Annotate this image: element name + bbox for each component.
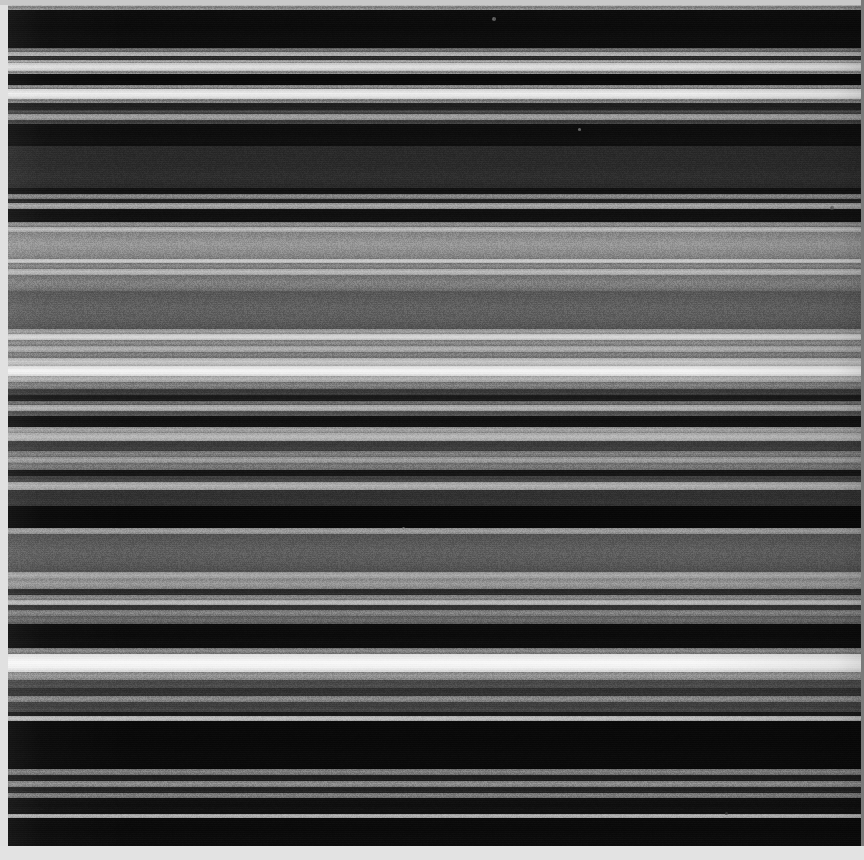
scan-band — [8, 89, 861, 99]
scan-band — [8, 463, 861, 470]
scan-band — [8, 275, 861, 291]
scan-band — [8, 291, 861, 329]
scan-band — [8, 688, 861, 696]
scan-band — [8, 63, 861, 71]
scan-band — [8, 818, 861, 846]
scan-band — [8, 721, 861, 769]
scan-band — [8, 124, 861, 146]
scan-band — [8, 654, 861, 672]
scan-band — [8, 382, 861, 389]
scan-band — [8, 146, 861, 188]
scan-band — [8, 624, 861, 648]
top-margin-strip — [0, 0, 864, 5]
scan-band — [8, 232, 861, 259]
band-stack — [8, 5, 861, 846]
bottom-margin-strip — [0, 846, 864, 860]
scan-band — [8, 798, 861, 814]
scan-band — [8, 358, 861, 366]
scan-band — [8, 433, 861, 441]
scan-band — [8, 490, 861, 506]
scan-band — [8, 482, 861, 490]
scan-band — [8, 506, 861, 528]
scan-band — [8, 702, 861, 712]
scan-band — [8, 616, 861, 624]
left-margin-strip — [0, 0, 8, 860]
scan-band — [8, 572, 861, 579]
scan-band — [8, 672, 861, 680]
scan-band — [8, 74, 861, 85]
scan-figure — [0, 0, 864, 860]
scan-band — [8, 534, 861, 572]
scan-band — [8, 10, 861, 48]
scan-band — [8, 680, 861, 688]
scan-band — [8, 579, 861, 589]
scan-band — [8, 209, 861, 222]
scan-band — [8, 366, 861, 376]
scan-band — [8, 416, 861, 427]
scan-band — [8, 441, 861, 451]
scan-band — [8, 103, 861, 110]
